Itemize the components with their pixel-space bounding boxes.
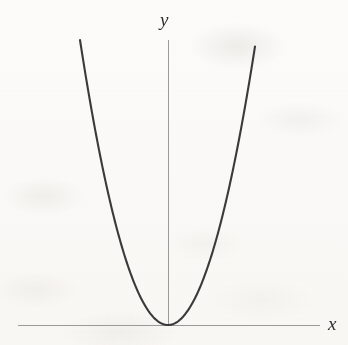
parabola-figure: y x bbox=[0, 0, 348, 345]
plot-canvas bbox=[0, 0, 348, 345]
y-axis-label: y bbox=[160, 10, 168, 29]
x-axis-label: x bbox=[328, 314, 336, 333]
